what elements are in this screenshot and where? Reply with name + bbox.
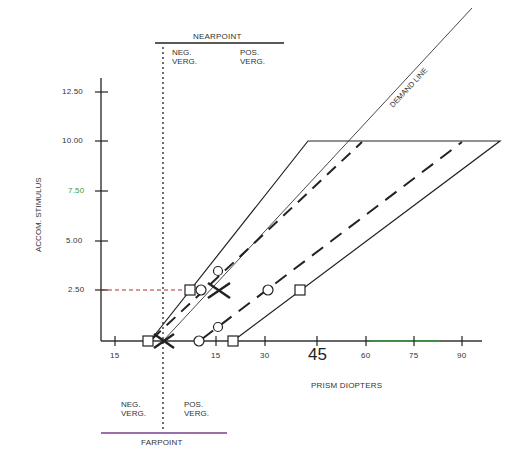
farpoint-pos-verg: POS. VERG. <box>184 400 214 418</box>
x-tick-30: 30 <box>260 351 269 360</box>
x-tick-90: 90 <box>457 351 466 360</box>
x-tick-15-neg: 15 <box>110 351 119 360</box>
demand-line-label: DEMAND LINE <box>388 66 430 110</box>
x-tick-15: 15 <box>211 351 220 360</box>
circle-markers <box>194 267 273 347</box>
x-tick-75: 75 <box>409 351 418 360</box>
farpoint-neg-verg: NEG. VERG. <box>121 400 151 418</box>
demand-line <box>163 8 472 341</box>
farpoint-header: FARPOINT <box>141 438 183 447</box>
nearpoint-pos-verg: POS. VERG. <box>240 48 270 66</box>
x-axis-label: PRISM DIOPTERS <box>311 381 382 390</box>
nearpoint-neg-verg: NEG. VERG. <box>172 48 202 66</box>
y-axis-label: ACCOM. STIMULUS <box>34 177 43 252</box>
zone-boundary <box>150 141 500 341</box>
x-tick-60: 60 <box>361 351 370 360</box>
y-tick-12-50: 12.50 <box>62 87 83 96</box>
nearpoint-header: NEARPOINT <box>193 32 241 41</box>
y-tick-7-50: 7.50 <box>68 186 84 195</box>
y-tick-10-00: 10.00 <box>62 136 83 145</box>
y-tick-2-50: 2.50 <box>68 285 84 294</box>
x-tick-45: 45 <box>308 345 327 365</box>
positive-blur-dashed-line <box>202 142 462 339</box>
y-tick-5-00: 5.00 <box>66 236 82 245</box>
